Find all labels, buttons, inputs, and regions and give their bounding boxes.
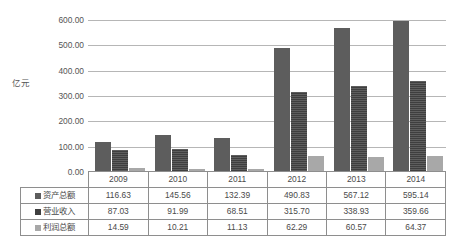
table-cell: 87.03: [89, 204, 148, 220]
legend-swatch-icon: [35, 225, 41, 231]
table-column-header: 2011: [208, 172, 267, 188]
table-cell: 68.51: [208, 204, 267, 220]
series-name: 营业收入: [43, 206, 75, 216]
table-cell: 567.12: [326, 188, 385, 204]
bar-groups: [88, 20, 446, 172]
legend-swatch-icon: [35, 209, 41, 215]
data-table: 200920102011201220132014资产总额116.63145.56…: [20, 171, 446, 236]
legend-swatch-icon: [35, 193, 41, 199]
table-cell: 595.14: [386, 188, 446, 204]
table-cell: 338.93: [326, 204, 385, 220]
table-cell: 11.13: [208, 220, 267, 236]
bar: [334, 28, 350, 172]
bar-group: [327, 20, 387, 172]
table-row: 营业收入87.0391.9968.51315.70338.93359.66: [21, 204, 446, 220]
table-column-header: 2014: [386, 172, 446, 188]
table-column-header: 2012: [267, 172, 326, 188]
bar: [427, 156, 443, 172]
table-cell: 116.63: [89, 188, 148, 204]
table-cell: 62.29: [267, 220, 326, 236]
bar: [368, 157, 384, 172]
y-axis-tick-label: 200.00: [38, 116, 84, 126]
legend-row-label: 营业收入: [21, 204, 89, 220]
series-name: 资产总额: [43, 190, 75, 200]
y-axis-tick-label: 100.00: [38, 142, 84, 152]
plot-area: [88, 20, 446, 172]
bar-group: [386, 20, 446, 172]
table-corner-cell: [21, 172, 89, 188]
y-axis-tick-label: 400.00: [38, 66, 84, 76]
bar: [410, 81, 426, 172]
table-cell: 145.56: [148, 188, 207, 204]
table-cell: 132.39: [208, 188, 267, 204]
table-cell: 490.83: [267, 188, 326, 204]
table-column-header: 2010: [148, 172, 207, 188]
table-cell: 14.59: [89, 220, 148, 236]
y-axis-tick-label: 300.00: [38, 91, 84, 101]
bar-group: [148, 20, 208, 172]
bar: [308, 156, 324, 172]
bar-group: [267, 20, 327, 172]
bar-group: [207, 20, 267, 172]
bar: [95, 142, 111, 172]
table-cell: 359.66: [386, 204, 446, 220]
table-cell: 91.99: [148, 204, 207, 220]
table-cell: 64.37: [386, 220, 446, 236]
bar: [112, 150, 128, 172]
table-column-header: 2013: [326, 172, 385, 188]
table-row: 利润总额14.5910.2111.1362.2960.5764.37: [21, 220, 446, 236]
table-header-row: 200920102011201220132014: [21, 172, 446, 188]
bar: [231, 155, 247, 172]
bar-chart-with-data-table: 亿元 600.00500.00400.00300.00200.00100.000…: [0, 0, 461, 240]
bar: [291, 92, 307, 172]
legend-row-label: 资产总额: [21, 188, 89, 204]
table-cell: 315.70: [267, 204, 326, 220]
bar: [172, 149, 188, 172]
bar: [351, 86, 367, 172]
y-axis-tick-label: 600.00: [38, 15, 84, 25]
bar-group: [88, 20, 148, 172]
bar: [155, 135, 171, 172]
y-axis-tick-label: 500.00: [38, 40, 84, 50]
table-cell: 10.21: [148, 220, 207, 236]
bar: [393, 21, 409, 172]
table-cell: 60.57: [326, 220, 385, 236]
bar: [214, 138, 230, 172]
series-name: 利润总额: [43, 222, 75, 232]
bar: [274, 48, 290, 172]
y-axis-title: 亿元: [12, 76, 30, 88]
legend-row-label: 利润总额: [21, 220, 89, 236]
table-row: 资产总额116.63145.56132.39490.83567.12595.14: [21, 188, 446, 204]
table-column-header: 2009: [89, 172, 148, 188]
